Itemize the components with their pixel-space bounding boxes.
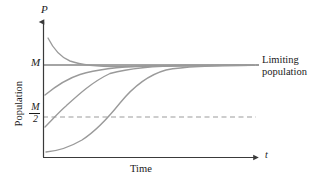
plot-area xyxy=(0,0,316,184)
curve-sigmoid-near-zero xyxy=(46,65,254,152)
y-axis-title: Population xyxy=(13,68,24,140)
x-axis-variable-label: t xyxy=(265,150,268,161)
fraction-numerator: M xyxy=(29,102,42,112)
limiting-population-line1: Limiting xyxy=(262,54,307,66)
y-axis-variable-label: P xyxy=(41,4,48,16)
curve-decaying-above-M xyxy=(48,38,254,67)
x-axis-title: Time xyxy=(130,163,152,174)
limiting-population-line2: population xyxy=(262,66,307,78)
tick-label-half-limiting-population: M 2 xyxy=(29,102,42,125)
tick-label-limiting-population: M xyxy=(31,57,40,69)
logistic-growth-figure: P t M M 2 Population Time Limiting popul… xyxy=(0,0,316,184)
curve-concave-above-half xyxy=(45,65,254,95)
limiting-population-annotation: Limiting population xyxy=(262,54,307,79)
fraction-denominator: 2 xyxy=(29,114,42,125)
